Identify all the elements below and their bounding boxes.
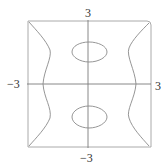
upper-closed-loop	[72, 42, 107, 62]
tick-label-left: −3	[7, 78, 20, 90]
lower-closed-loop	[72, 106, 107, 128]
contour-plot	[0, 0, 168, 166]
right-boundary-curve	[128, 23, 149, 146]
tick-label-top: 3	[85, 7, 91, 19]
tick-label-bottom: −3	[80, 152, 93, 164]
tick-label-right: 3	[155, 80, 161, 92]
